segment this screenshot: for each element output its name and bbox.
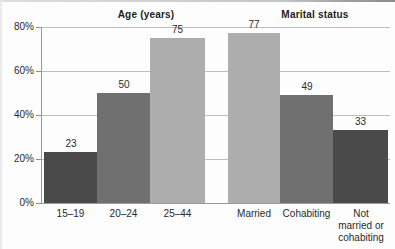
value-label-cohabiting: 49 [284,81,330,92]
value-label-married: 77 [231,19,277,30]
x-label-married: Married [224,208,284,220]
bar-cohabiting[interactable] [280,95,333,203]
y-tick-label-60: 60% [3,65,34,76]
x-label-age-25-44: 25–44 [148,208,207,220]
y-tick-80 [36,27,41,28]
x-label-not-married-line-3: cohabiting [331,232,391,244]
y-tick-60 [36,71,41,72]
y-tick-40 [36,115,41,116]
scan-artifact-top [0,0,395,2]
x-label-age-20-24: 20–24 [94,208,153,220]
scan-artifact-left [0,0,2,249]
y-tick-label-20: 20% [3,153,34,164]
value-label-age-25-44: 75 [154,24,201,35]
x-label-cohabiting: Cohabiting [276,208,337,220]
bar-age-15-19[interactable] [44,152,97,203]
bar-age-20-24[interactable] [97,93,150,203]
value-label-not-married-or-cohabiting: 33 [337,116,384,127]
y-tick-label-80: 80% [3,21,34,32]
value-label-age-15-19: 23 [48,138,94,149]
y-tick-label-0: 0% [3,197,34,208]
x-axis-line [41,203,390,204]
x-label-not-married-line-1: Not [331,208,391,220]
x-label-not-married-or-cohabiting: Not married or cohabiting [331,208,391,244]
bar-age-25-44[interactable] [150,38,205,203]
chart-figure: Age (years) Marital status 80% 60% 40% 2… [0,0,395,249]
y-tick-0 [36,203,41,204]
value-label-age-20-24: 50 [101,79,147,90]
x-label-age-15-19: 15–19 [41,208,100,220]
y-axis-line [41,27,42,204]
y-tick-20 [36,159,41,160]
gridline-80 [41,27,390,28]
chart-title-age: Age (years) [76,9,216,20]
x-label-not-married-line-2: married or [331,220,391,232]
bar-married[interactable] [228,33,280,203]
y-tick-label-40: 40% [3,109,34,120]
gridline-60 [41,71,390,72]
bar-not-married-or-cohabiting[interactable] [333,130,388,203]
